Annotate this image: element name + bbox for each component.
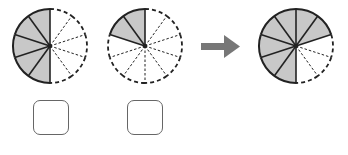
fraction-circle-result [259,9,333,83]
circles-layer [13,9,333,83]
arrow-right-icon [201,35,240,58]
answer-box-1[interactable] [33,100,69,135]
answer-box-2[interactable] [127,100,163,135]
fraction-circle-first [13,9,87,83]
fraction-circle-second [108,9,182,83]
